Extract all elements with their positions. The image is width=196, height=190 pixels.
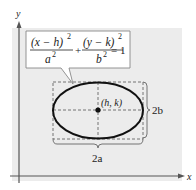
term1-denominator-exp: 2 [52, 50, 56, 59]
term1-numerator-exp: 2 [67, 32, 71, 41]
term2-numerator-exp: 2 [118, 32, 122, 41]
center-label: (h, k) [101, 97, 123, 109]
term2-denominator: b [96, 53, 102, 65]
term1-denominator: a [45, 53, 51, 65]
x-axis-label: x [186, 171, 192, 182]
vertical-dimension-label: 2b [152, 104, 164, 116]
y-axis-arrow-icon [17, 21, 22, 28]
horizontal-dimension-label: 2a [92, 152, 103, 164]
term2-numerator: (y − k) [83, 36, 115, 49]
equals-one: = 1 [111, 44, 125, 56]
plus-sign: + [75, 44, 81, 56]
term2-denominator-exp: 2 [103, 50, 107, 59]
center-point [95, 107, 100, 112]
y-axis-label: y [15, 8, 21, 19]
ellipse-diagram: y x (h, k) 2b 2a (x − h) 2 [0, 0, 196, 190]
term1-numerator: (x − h) [31, 36, 63, 49]
